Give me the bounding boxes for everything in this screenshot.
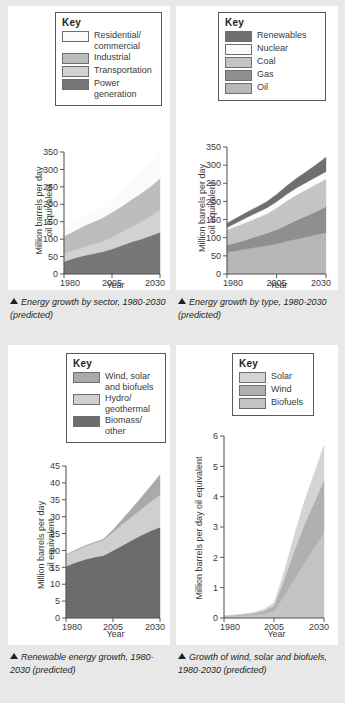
x-axis-title-2: Year bbox=[226, 280, 331, 290]
key-swatch-hydro-geothermal bbox=[73, 394, 100, 405]
figure-renewable-energy-growth: Key Wind, solar and biofuels Hydro/ geot… bbox=[8, 345, 170, 645]
key-box-wsb: Key Solar Wind Biofuels bbox=[232, 353, 314, 416]
y-axis-title-4: Million barrels per day oil equivalent bbox=[194, 428, 204, 628]
key-swatch-wind bbox=[239, 385, 266, 396]
key-label-nuclear: Nuclear bbox=[257, 43, 288, 54]
key-item-residential-commercial: Residential/ commercial bbox=[62, 30, 156, 51]
key-item-hydro-geothermal: Hydro/ geothermal bbox=[73, 393, 160, 414]
x-axis-title-1: Year bbox=[63, 280, 168, 290]
key-item-wind: Wind bbox=[239, 384, 308, 396]
y-tick-label: 0 bbox=[213, 613, 218, 623]
key-swatch-transportation bbox=[62, 66, 89, 77]
key-item-nuclear: Nuclear bbox=[225, 43, 320, 55]
key-item-industrial: Industrial bbox=[62, 52, 156, 64]
y-axis-title-2: Million barrels per dayoil equivalent bbox=[197, 143, 217, 273]
key-swatch-biofuels bbox=[239, 398, 266, 409]
key-title: Key bbox=[62, 17, 156, 28]
key-label-wind: Wind bbox=[271, 384, 292, 395]
key-label-solar: Solar bbox=[271, 371, 292, 382]
key-swatch-renewables bbox=[225, 31, 252, 42]
key-box-type: Key Renewables Nuclear Coal Gas Oil bbox=[218, 12, 326, 101]
triangle-marker-icon bbox=[178, 653, 186, 659]
key-swatch-industrial bbox=[62, 53, 89, 64]
x-axis-title-4: Year bbox=[224, 629, 329, 639]
key-label-renewables: Renewables bbox=[257, 30, 307, 41]
key-item-power-generation: Power generation bbox=[62, 78, 156, 99]
key-title: Key bbox=[73, 358, 160, 369]
key-title: Key bbox=[225, 17, 320, 28]
key-label-gas: Gas bbox=[257, 69, 274, 80]
key-item-oil: Oil bbox=[225, 82, 320, 94]
triangle-marker-icon bbox=[10, 298, 18, 304]
caption-text-1: Energy growth by sector, 1980-2030 (pred… bbox=[10, 297, 166, 320]
key-label-wind-solar-biofuels: Wind, solar and biofuels bbox=[105, 371, 154, 392]
figure-energy-growth-by-sector: Key Residential/ commercial Industrial T… bbox=[8, 6, 170, 290]
key-swatch-power-generation bbox=[62, 79, 89, 90]
figure-page: Key Residential/ commercial Industrial T… bbox=[0, 0, 345, 703]
key-label-industrial: Industrial bbox=[94, 52, 131, 63]
key-label-residential-commercial: Residential/ commercial bbox=[94, 30, 141, 51]
key-box-renewable: Key Wind, solar and biofuels Hydro/ geot… bbox=[66, 353, 166, 443]
key-item-gas: Gas bbox=[225, 69, 320, 81]
key-item-renewables: Renewables bbox=[225, 30, 320, 42]
x-axis-title-3: Year bbox=[63, 629, 168, 639]
caption-text-4: Growth of wind, solar and biofuels, 1980… bbox=[178, 652, 327, 675]
key-label-oil: Oil bbox=[257, 82, 268, 93]
key-label-transportation: Transportation bbox=[94, 65, 152, 76]
caption-text-2: Energy growth by type, 1980-2030 (predic… bbox=[178, 297, 327, 320]
key-swatch-gas bbox=[225, 70, 252, 81]
y-tick-label: 5 bbox=[213, 462, 218, 472]
y-tick-label: 2 bbox=[213, 553, 218, 563]
key-box-sector: Key Residential/ commercial Industrial T… bbox=[55, 12, 162, 106]
key-item-wind-solar-biofuels: Wind, solar and biofuels bbox=[73, 371, 160, 392]
key-swatch-oil bbox=[225, 83, 252, 94]
key-label-hydro-geothermal: Hydro/ geothermal bbox=[105, 393, 150, 414]
y-tick-label: 1 bbox=[213, 583, 218, 593]
y-axis-title-3: Million barrels per dayoil equivalent bbox=[36, 470, 56, 620]
caption-figure-1: Energy growth by sector, 1980-2030 (pred… bbox=[10, 296, 170, 321]
y-tick-label: 6 bbox=[213, 431, 218, 441]
triangle-marker-icon bbox=[10, 653, 18, 659]
key-swatch-coal bbox=[225, 57, 252, 68]
y-tick-label: 3 bbox=[213, 522, 218, 532]
key-label-biomass-other: Biomass/ other bbox=[105, 415, 142, 436]
key-label-coal: Coal bbox=[257, 56, 276, 67]
key-swatch-wind-solar-biofuels bbox=[73, 372, 100, 383]
caption-figure-4: Growth of wind, solar and biofuels, 1980… bbox=[178, 651, 338, 676]
key-item-biofuels: Biofuels bbox=[239, 397, 308, 409]
key-label-biofuels: Biofuels bbox=[271, 397, 303, 408]
caption-text-3: Renewable energy growth, 1980-2030 (pred… bbox=[10, 652, 154, 675]
key-item-biomass-other: Biomass/ other bbox=[73, 415, 160, 436]
y-axis-title-1: Million barrels per dayoil equivalent bbox=[34, 148, 54, 273]
figure-growth-wind-solar-biofuels: Key Solar Wind Biofuels Million barrels … bbox=[176, 345, 338, 645]
triangle-marker-icon bbox=[178, 298, 186, 304]
figure-energy-growth-by-type: Key Renewables Nuclear Coal Gas Oil bbox=[176, 6, 338, 290]
y-tick-label: 4 bbox=[213, 492, 218, 502]
key-swatch-residential-commercial bbox=[62, 31, 89, 42]
key-swatch-solar bbox=[239, 372, 266, 383]
key-item-coal: Coal bbox=[225, 56, 320, 68]
caption-figure-2: Energy growth by type, 1980-2030 (predic… bbox=[178, 296, 338, 321]
caption-figure-3: Renewable energy growth, 1980-2030 (pred… bbox=[10, 651, 170, 676]
key-swatch-nuclear bbox=[225, 44, 252, 55]
key-title: Key bbox=[239, 358, 308, 369]
key-item-transportation: Transportation bbox=[62, 65, 156, 77]
key-item-solar: Solar bbox=[239, 371, 308, 383]
key-label-power-generation: Power generation bbox=[94, 78, 137, 99]
key-swatch-biomass-other bbox=[73, 416, 100, 427]
